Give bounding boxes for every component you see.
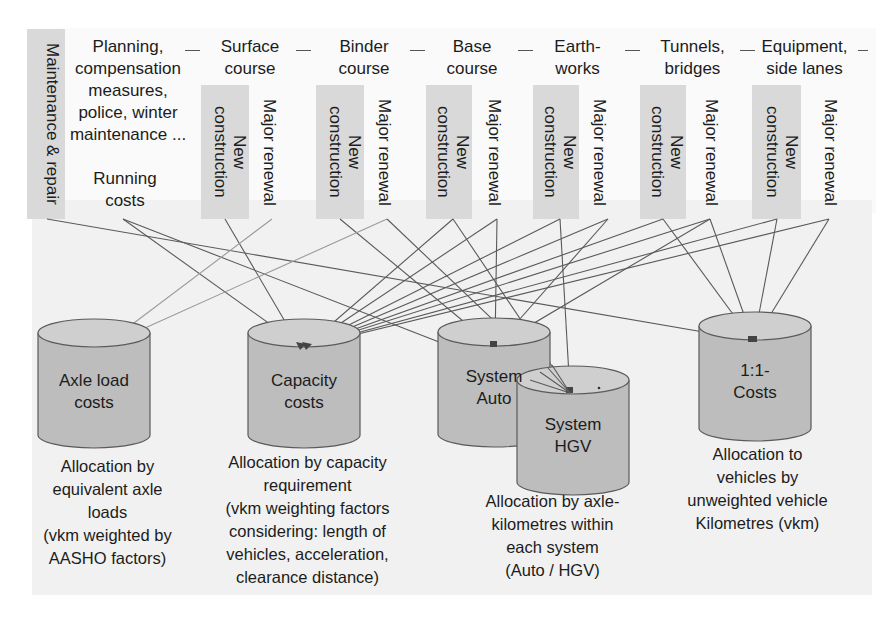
cylinder-label-axle-load-costs: Axle load costs bbox=[40, 370, 148, 414]
cylinder-label-one-to-one-costs: 1:1- Costs bbox=[701, 360, 809, 404]
cylinder-label-capacity-costs: Capacity costs bbox=[250, 370, 358, 414]
caption-axle-load-allocation: Allocation by equivalent axle loads (vkm… bbox=[25, 455, 190, 570]
caption-one-to-one-allocation: Allocation to vehicles by unweighted veh… bbox=[680, 443, 835, 535]
cylinder-label-system-hgv: System HGV bbox=[519, 414, 627, 458]
caption-system-allocation: Allocation by axle- kilometres within ea… bbox=[465, 490, 640, 582]
caption-capacity-allocation: Allocation by capacity requirement (vkm … bbox=[210, 451, 405, 589]
cylinder-label-system-auto: System Auto bbox=[440, 366, 548, 410]
